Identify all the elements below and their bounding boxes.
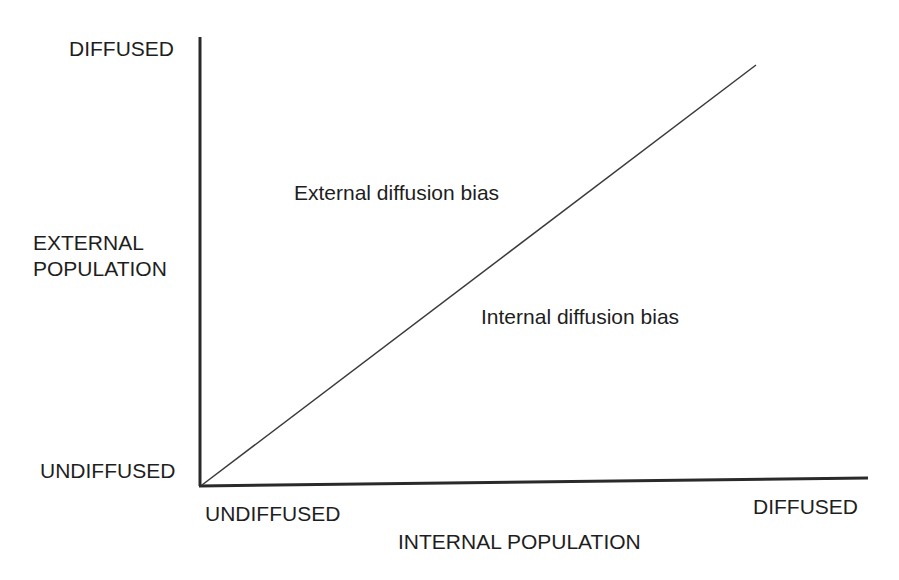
y-axis-title-line1: EXTERNAL <box>33 231 144 255</box>
x-axis-title: INTERNAL POPULATION <box>398 530 641 554</box>
region-upper-label: External diffusion bias <box>294 181 499 205</box>
y-axis-top-label: DIFFUSED <box>69 37 174 61</box>
region-lower-label: Internal diffusion bias <box>481 305 679 329</box>
x-axis <box>199 478 868 486</box>
diagram-canvas <box>0 0 899 580</box>
x-axis-right-label: DIFFUSED <box>753 495 858 519</box>
x-axis-left-label: UNDIFFUSED <box>205 502 340 526</box>
y-axis-title-line2: POPULATION <box>33 257 167 281</box>
y-axis-bottom-label: UNDIFFUSED <box>40 459 175 483</box>
diagonal-line <box>202 65 756 485</box>
